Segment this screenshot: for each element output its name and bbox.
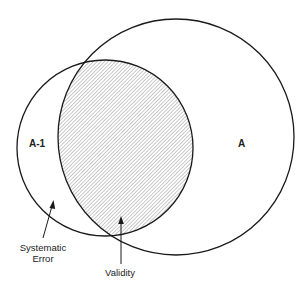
label-a: A [238,138,245,149]
intersection-region [58,19,294,255]
venn-diagram: A-1 A Systematic Error Validity [0,0,305,293]
label-systematic: Systematic [20,242,67,253]
label-error: Error [32,253,53,264]
label-validity: Validity [105,267,135,278]
label-a-minus-1: A-1 [29,138,46,149]
